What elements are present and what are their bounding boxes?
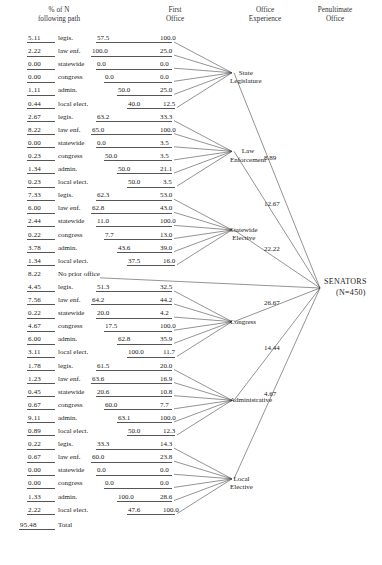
total-percent: 95.48 [20,521,37,529]
percent-underline [27,449,55,450]
first-office-value: 62.8 [118,335,130,343]
office-experience-value: 100.0 [163,506,179,514]
first-office-value: 63.2 [97,113,109,121]
column-header-3: PenultimateOffice [290,6,380,23]
first-office-value: 0.0 [97,139,106,147]
first-office-value: 50.0 [128,178,140,186]
first-office-value: 63.1 [118,414,130,422]
path-percent: 0.00 [28,479,41,487]
path-percent: 8.22 [28,270,41,278]
first-office-label: law enf. [58,453,81,461]
first-office-label: local elect. [58,100,88,108]
total-underline [19,529,55,530]
first-office-value: 50.0 [118,86,130,94]
flow-connector [127,435,175,436]
flow-line-5-1 [174,461,232,479]
percent-underline [27,383,55,384]
flow-line-3-3 [174,322,232,331]
office-experience-value: 25.0 [160,86,172,94]
path-percent: 3.78 [28,244,41,252]
flow-connector [96,318,172,319]
percent-underline [27,134,55,135]
percent-underline [27,42,55,43]
first-office-label: statewide [58,60,84,68]
flow-connector [104,331,172,332]
flow-connector [96,147,172,148]
flow-line-4-3 [174,400,232,409]
first-office-value: 60.0 [92,453,104,461]
flow-line-3-0 [174,291,232,322]
first-office-value: 61.5 [97,362,109,370]
first-office-value: 51.3 [97,283,109,291]
flow-line-3-2 [174,317,232,322]
office-experience-value: 43.0 [160,204,172,212]
flow-connector [91,462,172,463]
flow-connector [91,304,172,305]
path-percent: 0.67 [28,453,41,461]
flow-connector [127,108,175,109]
office-experience-value: 14.3 [160,440,172,448]
percent-underline [27,173,55,174]
office-node-line1: Statewide [230,226,258,234]
flow-line-1-0 [174,121,232,152]
flow-connector [96,200,172,201]
first-office-label: admin. [58,165,77,173]
office-experience-value: 3.5 [160,152,169,160]
first-office-label: congress [58,231,83,239]
flow-connector [127,514,175,515]
path-percent: 7.33 [28,191,41,199]
path-percent: 2.67 [28,113,41,121]
office-experience-value: 12.3 [163,427,175,435]
percent-underline [27,69,55,70]
first-office-label: law enf. [58,126,81,134]
first-office-label: No prior office [58,270,100,278]
flow-connector [91,383,172,384]
office-experience-value: 0.0 [160,466,169,474]
flow-line-0-3 [174,73,232,82]
flow-connector [127,187,175,188]
office-node-line1: Local [234,475,250,483]
flow-line-2-1 [174,212,232,230]
flow-connector [117,252,172,253]
flow-connector [104,82,172,83]
total-label: Total [58,521,72,529]
first-office-label: statewide [58,466,84,474]
percent-underline [27,200,55,201]
first-office-label: legis. [58,440,73,448]
flow-line-0-2 [174,68,232,73]
percent-underline [27,252,55,253]
first-office-label: admin. [58,86,77,94]
office-node-line1: Congress [230,318,256,326]
percent-underline [27,462,55,463]
first-office-label: statewide [58,139,84,147]
first-office-label: congress [58,401,83,409]
office-experience-value: 13.0 [160,231,172,239]
flow-line-no-prior [100,278,320,288]
office-node: StatewideElective [230,226,258,243]
first-office-value: 62.8 [92,204,104,212]
penultimate-value: 14.44 [264,344,280,352]
office-experience-value: 7.7 [160,401,169,409]
percent-underline [27,344,55,345]
office-experience-value: 53.0 [160,191,172,199]
first-office-value: 50.0 [105,152,117,160]
first-office-label: congress [58,73,83,81]
flow-line-5-0 [174,448,232,479]
path-percent: 0.89 [28,427,41,435]
first-office-value: 50.0 [128,427,140,435]
column-header-line2: following path [14,15,104,24]
office-node: Congress [230,318,256,326]
path-percent: 0.22 [28,440,41,448]
flow-connector [104,160,172,161]
path-percent: 2.44 [28,217,41,225]
percent-underline [27,370,55,371]
first-office-value: 100.0 [118,493,134,501]
percent-underline [27,108,55,109]
first-office-label: law enf. [58,375,81,383]
first-office-label: legis. [58,113,73,121]
percent-underline [27,291,55,292]
percent-underline [27,475,55,476]
flow-connector [117,344,172,345]
percent-underline [27,187,55,188]
first-office-label: admin. [58,335,77,343]
